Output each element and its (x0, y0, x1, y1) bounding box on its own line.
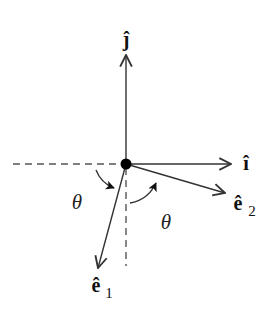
e1-hat-subscript: 1 (105, 285, 113, 301)
e1-hat-base: ê (92, 274, 101, 296)
e2-hat-vector (126, 164, 225, 193)
angle-arrow-right (130, 183, 156, 203)
e2-hat-subscript: 2 (248, 203, 256, 219)
theta-left-label: θ (72, 190, 82, 214)
i-hat-label: î (242, 152, 249, 174)
e2-hat-base: ê (234, 192, 243, 214)
origin-dot (121, 159, 132, 170)
e1-hat-label: ê 1 (92, 274, 113, 301)
j-hat-label: ĵ (122, 28, 130, 51)
e2-hat-label: ê 2 (234, 192, 256, 219)
theta-right-label: θ (161, 210, 171, 234)
unit-vector-diagram: ĵ î ê 2 ê 1 θ θ (0, 0, 270, 314)
angle-arrow-left (96, 170, 114, 188)
